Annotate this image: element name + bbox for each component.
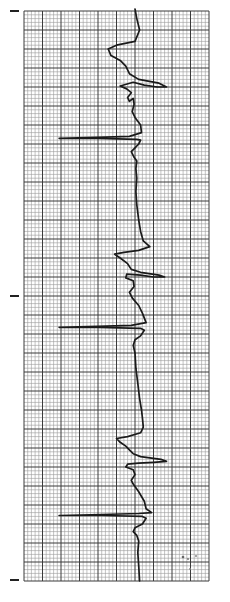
calibration-mark-middle xyxy=(10,295,19,297)
ecg-strip xyxy=(0,0,230,602)
calibration-mark-top xyxy=(10,10,19,12)
calibration-mark-bottom xyxy=(10,579,19,581)
grid-major-lines xyxy=(24,11,209,581)
